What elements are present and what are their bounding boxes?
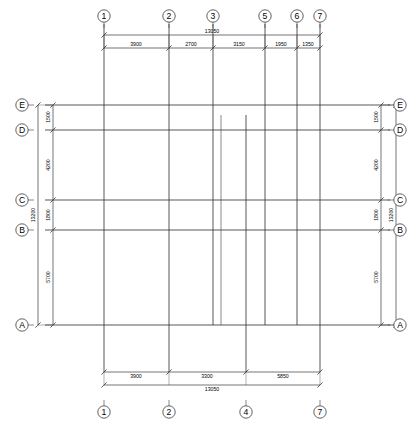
grid-bubble-A[interactable]: A — [16, 319, 34, 331]
bubble-label-D: D — [397, 125, 403, 135]
bubble-label-B: B — [19, 225, 25, 235]
grid-bubble-6[interactable]: 6 — [291, 10, 303, 28]
grid-bubble-1[interactable]: 1 — [98, 400, 110, 418]
grid-bubble-B[interactable]: B — [388, 224, 406, 236]
grid-bubble-7[interactable]: 7 — [314, 10, 326, 28]
bubble-label-E: E — [19, 100, 25, 110]
grid-bubble-D[interactable]: D — [388, 124, 406, 136]
bubble-label-5: 5 — [263, 11, 268, 21]
bubble-label-1: 1 — [102, 407, 107, 417]
bubble-label-A: A — [397, 320, 403, 330]
dim-top-overall: 13050 — [205, 28, 220, 34]
dim-bottom-overall: 13050 — [205, 386, 220, 392]
dimension-labels: 3900270031501950135013050390033005850130… — [30, 28, 394, 392]
dimension-lines — [35, 32, 398, 387]
grid-bubbles: 1235671247EDCBAEDCBA — [16, 10, 406, 418]
bubble-label-6: 6 — [295, 11, 300, 21]
dim-top-1: 2700 — [185, 41, 197, 47]
grid-bubble-2[interactable]: 2 — [163, 10, 175, 28]
dim-left-1: 4200 — [45, 159, 51, 171]
bubble-label-3: 3 — [211, 11, 216, 21]
grid-bubble-7[interactable]: 7 — [314, 400, 326, 418]
dim-bottom-0: 3900 — [130, 373, 142, 379]
dim-left-overall: 13200 — [30, 208, 36, 223]
dim-top-4: 1350 — [302, 41, 314, 47]
bubble-label-D: D — [19, 125, 25, 135]
bubble-label-C: C — [397, 195, 403, 205]
grid-bubble-C[interactable]: C — [388, 194, 406, 206]
bubble-label-A: A — [19, 320, 25, 330]
dim-right-2: 1800 — [373, 209, 379, 221]
bubble-label-B: B — [397, 225, 403, 235]
grid-bubble-B[interactable]: B — [16, 224, 34, 236]
bubble-label-C: C — [19, 195, 25, 205]
grid-bubble-3[interactable]: 3 — [207, 10, 219, 28]
dim-top-3: 1950 — [275, 41, 287, 47]
bubble-label-7: 7 — [318, 11, 323, 21]
grid-bubble-1[interactable]: 1 — [98, 10, 110, 28]
dim-top-2: 3150 — [233, 41, 245, 47]
dim-left-3: 5700 — [45, 271, 51, 283]
dim-right-overall: 13200 — [388, 208, 394, 223]
grid-bubble-4[interactable]: 4 — [240, 400, 252, 418]
bubble-label-2: 2 — [167, 407, 172, 417]
dim-right-1: 4200 — [373, 159, 379, 171]
dim-left-2: 1800 — [45, 209, 51, 221]
grid-bubble-2[interactable]: 2 — [163, 400, 175, 418]
grid-bubble-5[interactable]: 5 — [259, 10, 271, 28]
bubble-label-7: 7 — [318, 407, 323, 417]
structural-grid-plan: 3900270031501950135013050390033005850130… — [0, 0, 420, 435]
dim-top-0: 3900 — [130, 41, 142, 47]
grid-bubble-E[interactable]: E — [16, 99, 34, 111]
vertical-grid-lines — [104, 24, 320, 372]
bubble-label-E: E — [397, 100, 403, 110]
dim-right-3: 5700 — [373, 271, 379, 283]
grid-bubble-A[interactable]: A — [388, 319, 406, 331]
grid-bubble-C[interactable]: C — [16, 194, 34, 206]
dim-right-0: 1500 — [373, 111, 379, 123]
dim-bottom-2: 5850 — [277, 373, 289, 379]
bubble-label-4: 4 — [244, 407, 249, 417]
bubble-label-2: 2 — [167, 11, 172, 21]
horizontal-grid-lines — [45, 105, 390, 325]
dim-bottom-1: 3300 — [201, 373, 213, 379]
dim-left-0: 1500 — [45, 111, 51, 123]
grid-bubble-D[interactable]: D — [16, 124, 34, 136]
bubble-label-1: 1 — [102, 11, 107, 21]
grid-bubble-E[interactable]: E — [388, 99, 406, 111]
